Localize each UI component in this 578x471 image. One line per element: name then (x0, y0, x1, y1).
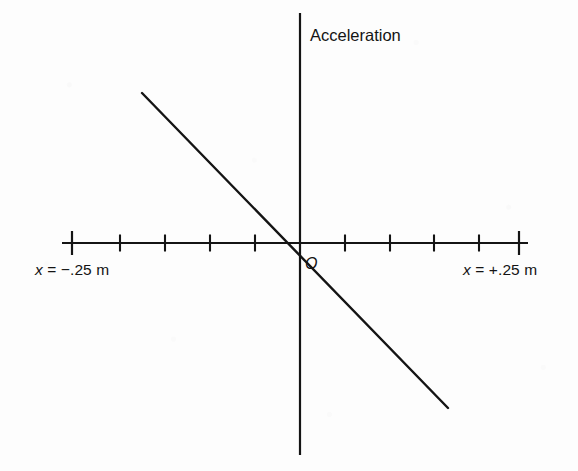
right-endpoint-variable: x (463, 261, 471, 278)
data-line-acceleration (142, 93, 448, 408)
acceleration-vs-position-figure: Acceleration O x = −.25 m x = +.25 m (0, 0, 578, 471)
right-endpoint-value: = +.25 m (471, 261, 537, 278)
plot-canvas (0, 0, 578, 471)
left-endpoint-value: = −.25 m (43, 261, 109, 278)
left-endpoint-label: x = −.25 m (35, 262, 109, 278)
left-endpoint-variable: x (35, 261, 43, 278)
right-endpoint-label: x = +.25 m (463, 262, 537, 278)
origin-label: O (305, 256, 317, 272)
vertical-axis-title: Acceleration (310, 27, 401, 44)
